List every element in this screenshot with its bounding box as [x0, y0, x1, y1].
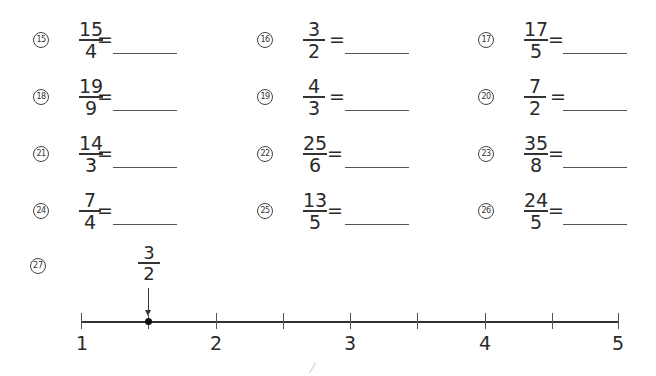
problem-number: 17 [478, 32, 494, 48]
denominator: 5 [530, 213, 542, 231]
equals-sign: = [548, 27, 564, 51]
numerator: 24 [524, 191, 548, 209]
problem-number: 15 [33, 32, 49, 48]
numerator: 7 [529, 77, 541, 95]
arrow-down-icon [148, 288, 149, 312]
answer-blank[interactable] [113, 110, 177, 111]
denominator: 2 [143, 265, 154, 282]
problem-17: 17 17 5 = [478, 20, 656, 64]
problem-number: 27 [30, 258, 46, 274]
equals-sign: = [548, 141, 564, 165]
tick [350, 313, 351, 329]
tick-label-4: 4 [470, 332, 500, 354]
answer-blank[interactable] [345, 224, 409, 225]
problem-number: 23 [478, 146, 494, 162]
problem-18: 18 19 9 = [33, 77, 243, 121]
tick-label-1: 1 [67, 332, 97, 354]
tick [283, 313, 284, 329]
denominator: 6 [309, 156, 321, 174]
denominator: 2 [308, 42, 320, 60]
answer-blank[interactable] [113, 224, 177, 225]
tick-label-2: 2 [201, 332, 231, 354]
answer-blank[interactable] [563, 110, 627, 111]
point-marker [145, 318, 152, 325]
equals-sign: = [97, 198, 113, 222]
problem-22: 22 25 6 = [257, 134, 467, 178]
tick [417, 313, 418, 329]
fraction: 7 2 [524, 77, 546, 117]
equals-sign: = [550, 84, 566, 108]
problem-number: 22 [257, 146, 273, 162]
tick-label-5: 5 [603, 332, 633, 354]
problem-number: 20 [478, 89, 494, 105]
answer-blank[interactable] [563, 167, 627, 168]
number-line-problem: 27 3 2 1 2 3 4 5 [0, 230, 656, 376]
fraction: 25 6 [303, 134, 327, 174]
answer-blank[interactable] [113, 167, 177, 168]
tick [216, 313, 217, 329]
fraction: 13 5 [303, 191, 327, 231]
problem-number: 19 [257, 89, 273, 105]
problem-number: 25 [257, 203, 273, 219]
numerator: 3 [308, 20, 320, 38]
numerator: 7 [84, 191, 96, 209]
problem-20: 20 7 2 = [478, 77, 656, 121]
answer-blank[interactable] [113, 53, 177, 54]
problem-16: 16 3 2 = [257, 20, 467, 64]
problem-number: 18 [33, 89, 49, 105]
tick [552, 313, 553, 329]
denominator: 3 [85, 156, 97, 174]
numerator: 35 [524, 134, 548, 152]
fraction: 35 8 [524, 134, 548, 174]
denominator: 4 [84, 213, 96, 231]
fraction: 4 3 [303, 77, 325, 117]
denominator: 5 [530, 42, 542, 60]
fraction: 17 5 [524, 20, 548, 60]
numerator: 25 [303, 134, 327, 152]
numerator: 3 [143, 244, 154, 261]
numerator: 17 [524, 20, 548, 38]
tick [485, 313, 486, 329]
denominator: 5 [309, 213, 321, 231]
problem-number: 24 [33, 203, 49, 219]
answer-blank[interactable] [563, 53, 627, 54]
marker-fraction: 3 2 [138, 244, 160, 282]
equals-sign: = [329, 27, 345, 51]
equals-sign: = [327, 141, 343, 165]
problem-15: 15 15 4 = [33, 20, 243, 64]
problem-23: 23 35 8 = [478, 134, 656, 178]
tick [618, 313, 619, 329]
problem-24: 24 7 4 = [33, 191, 243, 235]
problem-number: 16 [257, 32, 273, 48]
tick [81, 313, 82, 329]
denominator: 4 [85, 42, 97, 60]
stray-mark [309, 363, 316, 374]
equals-sign: = [329, 84, 345, 108]
answer-blank[interactable] [563, 224, 627, 225]
fraction: 24 5 [524, 191, 548, 231]
equals-sign: = [97, 141, 113, 165]
numerator: 13 [303, 191, 327, 209]
tick-label-3: 3 [335, 332, 365, 354]
problem-number: 21 [33, 146, 49, 162]
denominator: 2 [529, 99, 541, 117]
problem-25: 25 13 5 = [257, 191, 467, 235]
denominator: 8 [530, 156, 542, 174]
numerator: 4 [308, 77, 320, 95]
denominator: 3 [308, 99, 320, 117]
answer-blank[interactable] [345, 167, 409, 168]
answer-blank[interactable] [345, 110, 409, 111]
answer-blank[interactable] [345, 53, 409, 54]
problem-26: 26 24 5 = [478, 191, 656, 235]
equals-sign: = [97, 84, 113, 108]
equals-sign: = [548, 198, 564, 222]
equals-sign: = [327, 198, 343, 222]
problem-21: 21 14 3 = [33, 134, 243, 178]
fraction: 3 2 [303, 20, 325, 60]
equals-sign: = [97, 27, 113, 51]
problem-19: 19 4 3 = [257, 77, 467, 121]
denominator: 9 [85, 99, 97, 117]
problem-number: 26 [478, 203, 494, 219]
